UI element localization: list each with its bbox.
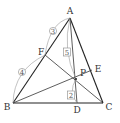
ratio-ap: 5 [64,48,71,57]
ratio-af: 3 [49,27,56,35]
geometry-diagram: 3 4 5 2 A B C D E F P [0,0,120,123]
segment-ad [70,18,77,103]
label-b: B [4,102,11,112]
svg-text:2: 2 [69,92,73,100]
segment-ca [70,18,103,103]
label-d: D [73,105,80,115]
svg-text:3: 3 [51,28,55,36]
label-f: F [38,47,44,57]
svg-text:4: 4 [20,69,25,77]
label-p: P [80,68,86,78]
point-p [75,78,77,80]
label-a: A [66,6,74,16]
ratio-pd: 2 [68,91,75,100]
svg-text:5: 5 [65,49,69,57]
segment-ab [13,18,70,103]
ratio-fb: 4 [18,68,25,76]
label-c: C [106,102,113,112]
label-e: E [95,64,102,74]
